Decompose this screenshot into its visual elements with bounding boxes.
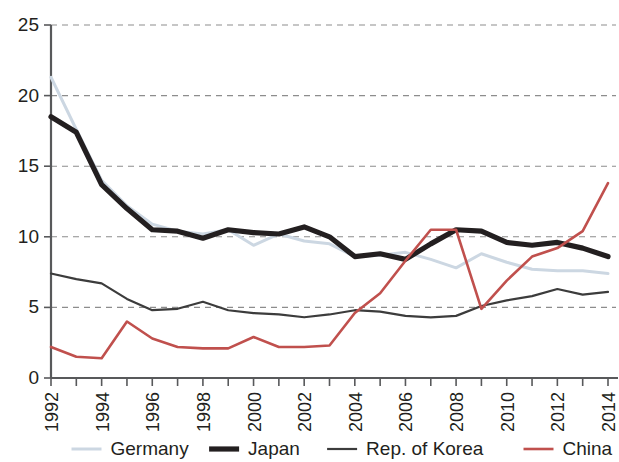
x-tick-label: 2012 (548, 392, 568, 432)
y-tick-label: 10 (18, 226, 39, 247)
y-tick-label: 15 (18, 155, 39, 176)
chart-legend: GermanyJapanRep. of KoreaChina (72, 438, 613, 459)
x-axis: 1992199419961998200020022004200620082010… (42, 378, 619, 432)
x-tick-label: 1996 (143, 392, 163, 432)
x-tick-label: 1992 (42, 392, 62, 432)
legend-label-germany: Germany (111, 438, 190, 459)
y-tick-label: 0 (28, 367, 39, 388)
x-tick-label: 1994 (93, 392, 113, 432)
x-tick-label: 2002 (295, 392, 315, 432)
x-tick-label: 2006 (396, 392, 416, 432)
legend-label-rep-of-korea: Rep. of Korea (366, 438, 484, 459)
x-tick-label: 2004 (346, 392, 366, 432)
series-line-rep-of-korea (51, 274, 608, 318)
x-tick-label: 2014 (599, 392, 619, 432)
chart-svg: 0510152025 19921994199619982000200220042… (0, 0, 619, 462)
x-tick-label: 2008 (447, 392, 467, 432)
legend-label-china: China (563, 438, 613, 459)
y-axis: 0510152025 (18, 14, 51, 388)
line-chart: 0510152025 19921994199619982000200220042… (0, 0, 619, 462)
y-tick-label: 20 (18, 85, 39, 106)
x-tick-label: 2000 (245, 392, 265, 432)
x-tick-label: 2010 (498, 392, 518, 432)
y-tick-label: 25 (18, 14, 39, 35)
y-tick-label: 5 (28, 296, 39, 317)
series-line-japan (51, 117, 608, 260)
data-series (51, 77, 608, 358)
x-tick-label: 1998 (194, 392, 214, 432)
legend-label-japan: Japan (248, 438, 300, 459)
gridlines (51, 25, 616, 307)
